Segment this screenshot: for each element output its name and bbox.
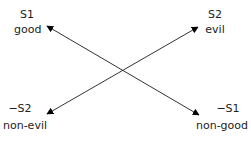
node-label: evil	[205, 23, 225, 36]
node-symbol: S1	[14, 8, 40, 21]
node-bottom-right: −S1 non-good	[193, 102, 251, 132]
node-bottom-left: −S2 non-evil	[0, 102, 50, 132]
node-label: non-good	[193, 119, 251, 132]
node-label: good	[14, 23, 40, 36]
node-top-left: S1 good	[14, 8, 40, 36]
node-symbol: −S2	[0, 102, 50, 115]
node-top-right: S2 evil	[205, 8, 225, 36]
node-symbol: −S1	[205, 102, 251, 115]
node-label: non-evil	[0, 119, 50, 132]
node-symbol: S2	[205, 8, 225, 21]
